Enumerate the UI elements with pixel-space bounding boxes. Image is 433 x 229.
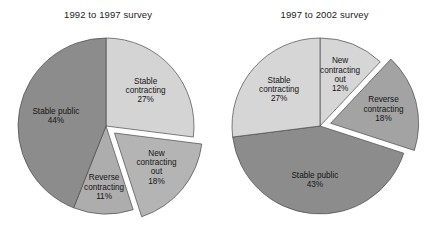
pie-wrap-1992-1997: Stablecontracting27%Newcontractingout18%… xyxy=(0,0,216,229)
pie-chart-1992-1997: Stablecontracting27%Newcontractingout18%… xyxy=(0,0,216,229)
pie-wrap-1997-2002: Newcontractingout12%Reversecontracting18… xyxy=(216,0,433,229)
pie-chart-1997-2002: Newcontractingout12%Reversecontracting18… xyxy=(216,0,433,229)
chart-panel-1997-2002: 1997 to 2002 survey Newcontractingout12%… xyxy=(216,0,433,229)
chart-panel-1992-1997: 1992 to 1997 survey Stablecontracting27%… xyxy=(0,0,216,229)
pie-charts-figure: 1992 to 1997 survey Stablecontracting27%… xyxy=(0,0,433,229)
